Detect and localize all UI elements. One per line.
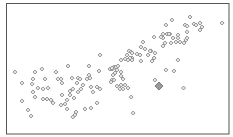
scatter-plot-svg — [0, 0, 233, 137]
scatter-chart — [0, 0, 233, 137]
